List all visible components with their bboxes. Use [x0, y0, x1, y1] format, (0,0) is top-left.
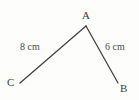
- vertex-label-a: A: [82, 10, 90, 21]
- side-length-label-ab: 6 cm: [105, 42, 125, 52]
- vertex-label-c: C: [7, 77, 14, 88]
- triangle-figure: A B C 8 cm 6 cm: [0, 0, 139, 100]
- vertex-label-b: B: [120, 83, 127, 94]
- triangle-side-ab: [86, 26, 118, 83]
- side-length-label-ca: 8 cm: [20, 42, 40, 52]
- triangle-side-ca: [20, 26, 86, 83]
